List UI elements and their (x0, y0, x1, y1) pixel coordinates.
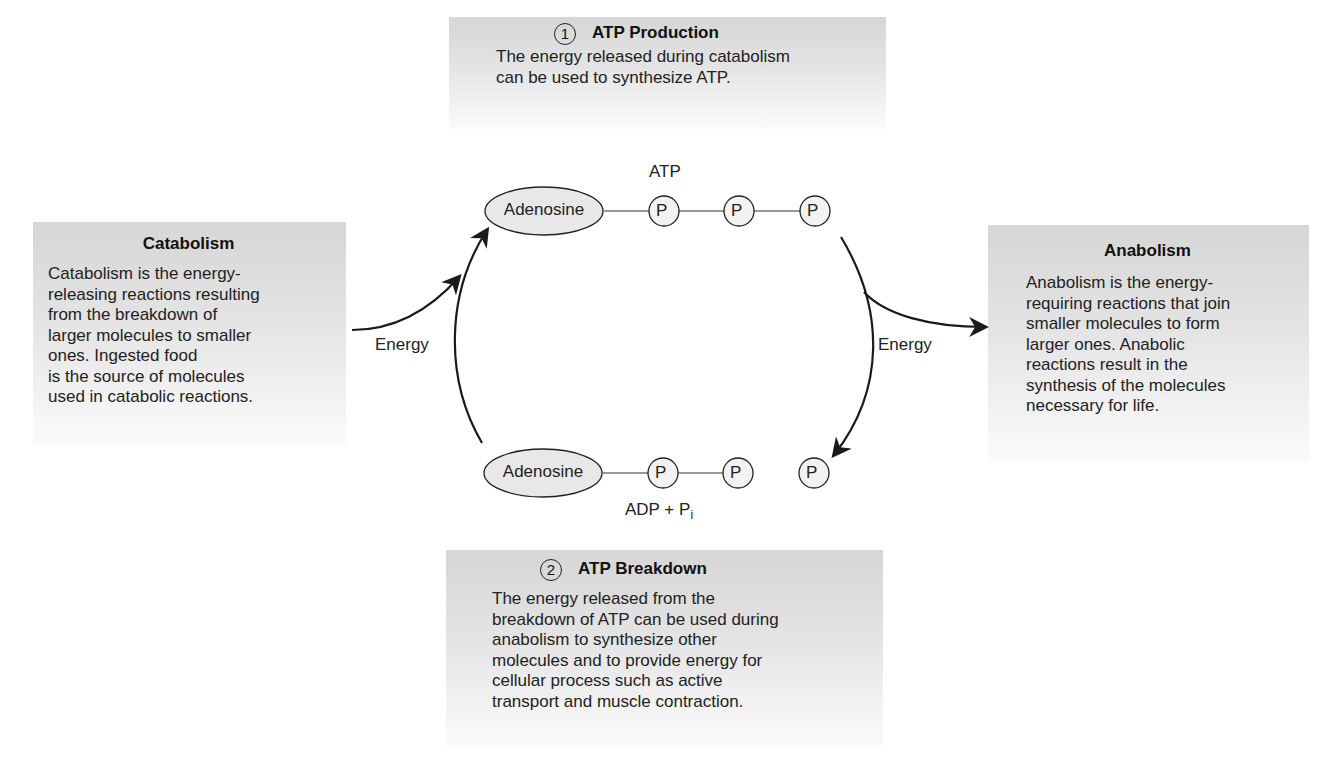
atp-cycle-diagram (0, 0, 1325, 769)
energy-input-arrow (352, 277, 459, 330)
phosphate-label: P (730, 463, 741, 483)
adp-pi-main: ADP + P (625, 500, 690, 519)
phosphate-label: P (656, 201, 667, 221)
breakdown-arc-arrow (834, 237, 873, 455)
free-phosphate-label: P (806, 463, 817, 483)
adp-pi-subscript: i (690, 508, 693, 522)
energy-label-right: Energy (878, 335, 932, 355)
energy-label-left: Energy (375, 335, 429, 355)
phosphate-label: P (807, 201, 818, 221)
phosphate-label: P (655, 463, 666, 483)
adenosine-label: Adenosine (495, 200, 593, 220)
adp-pi-label: ADP + Pi (625, 500, 693, 522)
synthesis-arc-arrow (455, 230, 487, 443)
atp-label: ATP (649, 162, 681, 182)
energy-output-arrow (864, 292, 985, 327)
adenosine-label: Adenosine (494, 462, 592, 482)
phosphate-label: P (731, 201, 742, 221)
